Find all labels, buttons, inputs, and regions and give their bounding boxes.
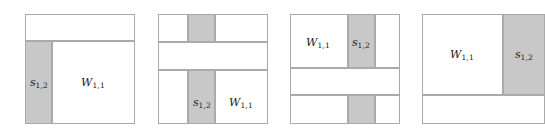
panel-1: s1,2 W1,1 bbox=[25, 14, 135, 124]
panel-1-white-region bbox=[52, 41, 135, 124]
panel-2-bottom-left-cell bbox=[158, 70, 188, 124]
panel-2: s1,2 W1,1 bbox=[158, 14, 268, 124]
panel-1-shaded-column bbox=[25, 41, 52, 124]
panel-3: W1,1 s1,2 bbox=[290, 14, 400, 124]
panel-4-shaded-column bbox=[503, 14, 545, 95]
panel-2-bottom-shaded-cell bbox=[188, 70, 215, 124]
panel-1-top-strip bbox=[25, 14, 135, 41]
panel-3-middle-strip bbox=[290, 68, 400, 95]
panel-3-bottom-shaded-cell bbox=[348, 95, 375, 124]
panel-2-bottom-right-cell bbox=[215, 70, 268, 124]
panel-3-top-left-cell bbox=[290, 14, 348, 68]
panel-2-top-left-cell bbox=[158, 14, 188, 42]
panel-3-top-shaded-cell bbox=[348, 14, 375, 68]
panel-4-white-region bbox=[422, 14, 503, 95]
panel-4-bottom-strip bbox=[422, 95, 545, 124]
panel-3-bottom-left-cell bbox=[290, 95, 348, 124]
panel-2-middle-strip bbox=[158, 42, 268, 70]
panel-3-bottom-right-cell bbox=[375, 95, 400, 124]
panel-2-top-right-cell bbox=[215, 14, 268, 42]
panel-4: W1,1 s1,2 bbox=[422, 14, 526, 124]
panel-2-top-shaded-cell bbox=[188, 14, 215, 42]
panel-3-top-right-cell bbox=[375, 14, 400, 68]
